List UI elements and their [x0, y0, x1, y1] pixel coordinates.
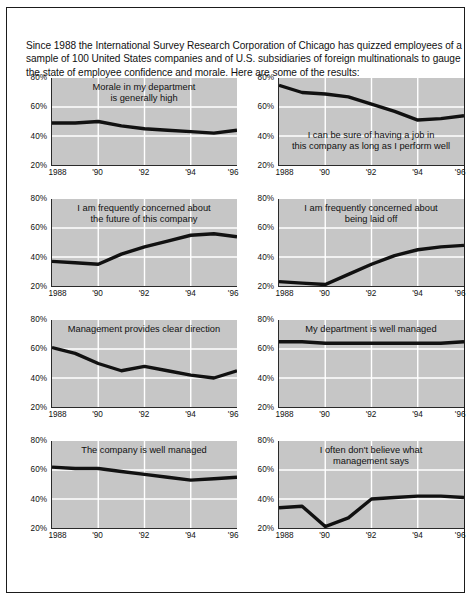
x-tick-label: '92	[139, 168, 150, 177]
plot-4	[51, 320, 237, 408]
y-tick-label: 60%	[258, 344, 274, 353]
y-tick-label: 60%	[31, 465, 47, 474]
y-axis-labels-5: 20%40%60%80%	[247, 316, 276, 412]
x-tick-label: 1988	[275, 289, 293, 298]
x-tick-label: '90	[319, 168, 330, 177]
y-axis-labels-3: 20%40%60%80%	[247, 195, 276, 291]
y-tick-label: 80%	[258, 194, 274, 203]
x-tick-label: '96	[228, 289, 239, 298]
x-axis-labels-1: 1988'90'92'94'96	[278, 168, 464, 182]
x-tick-label: '92	[366, 289, 377, 298]
plot-0	[51, 78, 237, 166]
y-tick-label: 80%	[258, 73, 274, 82]
y-tick-label: 20%	[31, 403, 47, 412]
survey-panel-figure: Since 1988 the International Survey Rese…	[0, 0, 471, 599]
series-svg-0	[52, 78, 237, 165]
x-tick-label: '96	[455, 168, 466, 177]
x-axis-labels-5: 1988'90'92'94'96	[278, 410, 464, 424]
y-axis-labels-1: 20%40%60%80%	[247, 74, 276, 170]
plot-area-6: The company is well managed	[51, 441, 237, 529]
x-tick-label: '92	[139, 289, 150, 298]
y-tick-label: 40%	[31, 132, 47, 141]
chart-panel-1: 20%40%60%80% I can be sure of having a j…	[247, 74, 466, 192]
y-tick-label: 60%	[31, 102, 47, 111]
plot-6	[51, 441, 237, 529]
plot-1	[278, 78, 464, 166]
plot-7	[278, 441, 464, 529]
x-tick-label: '92	[366, 531, 377, 540]
y-tick-label: 20%	[258, 282, 274, 291]
x-tick-label: '90	[92, 531, 103, 540]
chart-panel-5: 20%40%60%80% My department is well manag…	[247, 316, 466, 434]
y-tick-label: 40%	[31, 374, 47, 383]
plot-area-1: I can be sure of having a job inthis com…	[278, 78, 464, 166]
y-tick-label: 20%	[258, 403, 274, 412]
x-tick-label: '94	[412, 410, 423, 419]
chart-panel-4: 20%40%60%80% Management provides clear d…	[20, 316, 239, 434]
intro-paragraph: Since 1988 the International Survey Rese…	[26, 39, 462, 79]
x-tick-label: '90	[319, 289, 330, 298]
y-tick-label: 40%	[258, 374, 274, 383]
x-axis-labels-4: 1988'90'92'94'96	[51, 410, 237, 424]
plot-area-2: I am frequently concerned aboutthe futur…	[51, 199, 237, 287]
x-tick-label: 1988	[275, 531, 293, 540]
plot-area-5: My department is well managed	[278, 320, 464, 408]
y-tick-label: 80%	[31, 194, 47, 203]
series-svg-7	[279, 441, 464, 528]
y-tick-label: 40%	[258, 132, 274, 141]
y-tick-label: 20%	[31, 524, 47, 533]
x-tick-label: 1988	[48, 168, 66, 177]
x-axis-labels-3: 1988'90'92'94'96	[278, 289, 464, 303]
x-tick-label: 1988	[275, 410, 293, 419]
y-tick-label: 40%	[31, 495, 47, 504]
x-axis-labels-7: 1988'90'92'94'96	[278, 531, 464, 545]
y-tick-label: 60%	[31, 344, 47, 353]
x-tick-label: '90	[92, 289, 103, 298]
chart-grid: 20%40%60%80% Morale in my departmentis g…	[20, 74, 468, 599]
series-svg-5	[279, 320, 464, 407]
y-tick-label: 40%	[258, 253, 274, 262]
x-tick-label: '96	[228, 168, 239, 177]
x-tick-label: '94	[412, 531, 423, 540]
series-svg-1	[279, 78, 464, 165]
y-tick-label: 80%	[258, 315, 274, 324]
x-tick-label: 1988	[275, 168, 293, 177]
x-tick-label: '94	[185, 410, 196, 419]
plot-area-0: Morale in my departmentis generally high	[51, 78, 237, 166]
y-tick-label: 80%	[258, 436, 274, 445]
x-tick-label: '96	[455, 289, 466, 298]
y-tick-label: 80%	[31, 315, 47, 324]
x-axis-labels-2: 1988'90'92'94'96	[51, 289, 237, 303]
plot-5	[278, 320, 464, 408]
chart-panel-2: 20%40%60%80% I am frequently concerned a…	[20, 195, 239, 313]
chart-panel-0: 20%40%60%80% Morale in my departmentis g…	[20, 74, 239, 192]
plot-area-3: I am frequently concerned aboutbeing lai…	[278, 199, 464, 287]
y-tick-label: 60%	[258, 465, 274, 474]
y-tick-label: 40%	[258, 495, 274, 504]
figure-frame: Since 1988 the International Survey Rese…	[6, 7, 465, 593]
series-svg-3	[279, 199, 464, 286]
y-tick-label: 60%	[31, 223, 47, 232]
x-tick-label: '96	[228, 531, 239, 540]
y-tick-label: 80%	[31, 73, 47, 82]
x-tick-label: '92	[366, 410, 377, 419]
x-tick-label: '94	[185, 531, 196, 540]
plot-2	[51, 199, 237, 287]
x-tick-label: '92	[139, 410, 150, 419]
x-tick-label: '96	[455, 531, 466, 540]
x-tick-label: '90	[319, 410, 330, 419]
series-line	[279, 342, 464, 343]
chart-panel-7: 20%40%60%80% I often don't believe whatm…	[247, 437, 466, 555]
x-tick-label: '96	[228, 410, 239, 419]
x-tick-label: '90	[92, 168, 103, 177]
x-tick-label: '90	[319, 531, 330, 540]
x-tick-label: 1988	[48, 410, 66, 419]
y-axis-labels-0: 20%40%60%80%	[20, 74, 49, 170]
plot-area-7: I often don't believe whatmanagement say…	[278, 441, 464, 529]
x-tick-label: '90	[92, 410, 103, 419]
x-tick-label: '94	[185, 289, 196, 298]
x-tick-label: '94	[412, 168, 423, 177]
plot-3	[278, 199, 464, 287]
y-tick-label: 20%	[31, 282, 47, 291]
x-tick-label: '92	[366, 168, 377, 177]
